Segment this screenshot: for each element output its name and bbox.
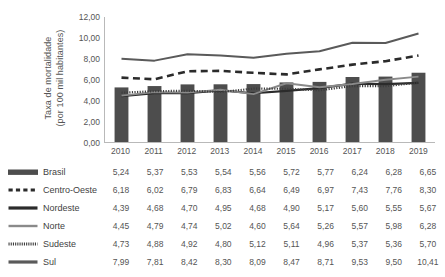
value-cell: 5,36 (377, 239, 411, 249)
value-cell: 8,42 (172, 257, 206, 267)
value-cell: 5,56 (240, 167, 274, 177)
value-cell: 6,02 (138, 185, 172, 195)
value-cells: 7,997,818,428,308,098,478,719,539,5010,4… (104, 257, 445, 267)
value-cell: 9,50 (377, 257, 411, 267)
value-cell: 6,24 (343, 167, 377, 177)
value-cell: 4,60 (240, 221, 274, 231)
value-cell: 5,70 (411, 239, 445, 249)
y-tick-label: 10,00 (58, 33, 100, 43)
value-cell: 5,77 (309, 167, 343, 177)
value-cells: 4,454,794,745,024,605,645,265,575,986,28 (104, 221, 445, 231)
value-cells: 6,186,026,796,836,646,496,977,437,768,30 (104, 185, 445, 195)
table-row: Norte4,454,794,745,024,605,645,265,575,9… (0, 217, 445, 235)
value-cell: 10,41 (411, 257, 445, 267)
y-tick-label: 6,00 (58, 75, 100, 85)
legend-swatch-dashed-line (8, 185, 38, 195)
table-row: Centro-Oeste6,186,026,796,836,646,496,97… (0, 181, 445, 199)
x-tick-label: 2011 (137, 146, 170, 160)
value-cell: 5,17 (309, 203, 343, 213)
value-cell: 6,65 (411, 167, 445, 177)
value-cell: 5,54 (206, 167, 240, 177)
value-cell: 6,28 (377, 167, 411, 177)
value-cell: 7,81 (138, 257, 172, 267)
value-cell: 7,99 (104, 257, 138, 267)
value-cell: 7,76 (377, 185, 411, 195)
value-cell: 5,64 (274, 221, 308, 231)
value-cell: 6,18 (104, 185, 138, 195)
value-cell: 6,49 (274, 185, 308, 195)
value-cell: 4,79 (138, 221, 172, 231)
legend-item-norte[interactable]: Norte (0, 221, 104, 231)
value-cell: 8,09 (240, 257, 274, 267)
value-cell: 6,28 (411, 221, 445, 231)
legend-label: Sudeste (43, 239, 76, 249)
table-row: Sul7,997,818,428,308,098,478,719,539,501… (0, 253, 445, 271)
value-cell: 5,26 (309, 221, 343, 231)
legend-swatch-solid-dark-line (8, 257, 38, 267)
value-cell: 4,68 (138, 203, 172, 213)
value-cells: 5,245,375,535,545,565,725,776,246,286,65 (104, 167, 445, 177)
legend-item-brasil[interactable]: Brasil (0, 167, 104, 177)
legend-label: Centro-Oeste (43, 185, 97, 195)
value-cell: 4,80 (206, 239, 240, 249)
value-cell: 8,30 (206, 257, 240, 267)
legend-item-sul[interactable]: Sul (0, 257, 104, 267)
legend-data-table: Brasil5,245,375,535,545,565,725,776,246,… (0, 163, 445, 277)
value-cell: 5,37 (343, 239, 377, 249)
value-cell: 8,30 (411, 185, 445, 195)
value-cell: 6,83 (206, 185, 240, 195)
value-cell: 7,43 (343, 185, 377, 195)
table-row: Nordeste4,394,684,704,954,684,905,175,60… (0, 199, 445, 217)
chart-area: Taxa de mortalidade (por 100 mil habitan… (0, 0, 445, 163)
legend-item-sudeste[interactable]: Sudeste (0, 239, 104, 249)
legend-swatch-solid-gray-line (8, 221, 38, 231)
value-cell: 5,57 (343, 221, 377, 231)
legend-item-centro-oeste[interactable]: Centro-Oeste (0, 185, 104, 195)
y-tick-label: 0,00 (58, 138, 100, 148)
value-cell: 6,79 (172, 185, 206, 195)
y-tick-label: 8,00 (58, 54, 100, 64)
x-tick-label: 2015 (269, 146, 302, 160)
y-tick-label: 2,00 (58, 117, 100, 127)
value-cell: 5,37 (138, 167, 172, 177)
legend-label: Sul (43, 257, 56, 267)
value-cell: 9,53 (343, 257, 377, 267)
y-tick-label: 4,00 (58, 96, 100, 106)
plot-area (104, 17, 435, 143)
value-cell: 5,12 (240, 239, 274, 249)
y-axis-tick-labels: 12,0010,008,006,004,002,000,00 (58, 11, 100, 147)
value-cell: 4,96 (309, 239, 343, 249)
x-tick-label: 2019 (402, 146, 435, 160)
value-cell: 5,24 (104, 167, 138, 177)
x-tick-label: 2018 (369, 146, 402, 160)
x-tick-label: 2014 (236, 146, 269, 160)
value-cell: 4,45 (104, 221, 138, 231)
legend-swatch-dotted-line (8, 239, 38, 249)
chart-figure: Taxa de mortalidade (por 100 mil habitan… (0, 0, 445, 277)
value-cells: 4,394,684,704,954,684,905,175,605,555,67 (104, 203, 445, 213)
value-cells: 4,734,884,924,805,125,114,965,375,365,70 (104, 239, 445, 249)
legend-swatch-bar-swatch (8, 167, 38, 177)
x-axis-tick-labels: 2010201120122013201420152016201720182019 (104, 146, 435, 160)
value-cell: 5,11 (274, 239, 308, 249)
value-cell: 4,39 (104, 203, 138, 213)
value-cell: 4,73 (104, 239, 138, 249)
plot-svg (105, 17, 435, 142)
value-cell: 8,47 (274, 257, 308, 267)
x-tick-label: 2017 (336, 146, 369, 160)
value-cell: 4,70 (172, 203, 206, 213)
legend-swatch-solid-thick-line (8, 203, 38, 213)
value-cell: 4,92 (172, 239, 206, 249)
x-tick-label: 2010 (104, 146, 137, 160)
value-cell: 6,97 (309, 185, 343, 195)
bar-2016 (313, 82, 327, 142)
legend-label: Brasil (43, 167, 66, 177)
legend-item-nordeste[interactable]: Nordeste (0, 203, 104, 213)
x-tick-label: 2016 (303, 146, 336, 160)
legend-label: Norte (43, 221, 65, 231)
value-cell: 5,98 (377, 221, 411, 231)
legend-label: Nordeste (43, 203, 80, 213)
value-cell: 4,74 (172, 221, 206, 231)
value-cell: 5,53 (172, 167, 206, 177)
table-row: Brasil5,245,375,535,545,565,725,776,246,… (0, 163, 445, 181)
